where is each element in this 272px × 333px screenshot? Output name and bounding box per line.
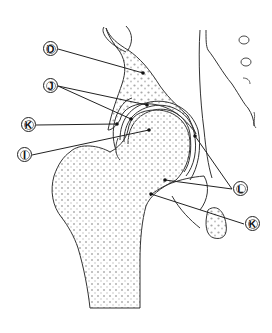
label-text: L: [237, 183, 244, 195]
sacrum-outline: [199, 30, 256, 178]
leader-L-2: [165, 180, 232, 189]
label-text: J: [47, 80, 53, 92]
label-K-lower: K: [245, 216, 260, 231]
leader-K2: [151, 194, 244, 224]
label-D: D: [43, 41, 58, 56]
leader-K1: [36, 124, 117, 125]
label-text: I: [23, 149, 26, 161]
leader-L-1: [195, 136, 232, 189]
label-text: K: [249, 218, 257, 230]
hip-joint-diagram: [0, 0, 272, 333]
label-text: D: [47, 43, 55, 55]
label-I: I: [17, 147, 32, 162]
femur: [52, 110, 190, 308]
label-J: J: [43, 78, 58, 93]
label-K-upper: K: [21, 117, 36, 132]
label-L: L: [233, 181, 248, 196]
label-text: K: [25, 119, 33, 131]
